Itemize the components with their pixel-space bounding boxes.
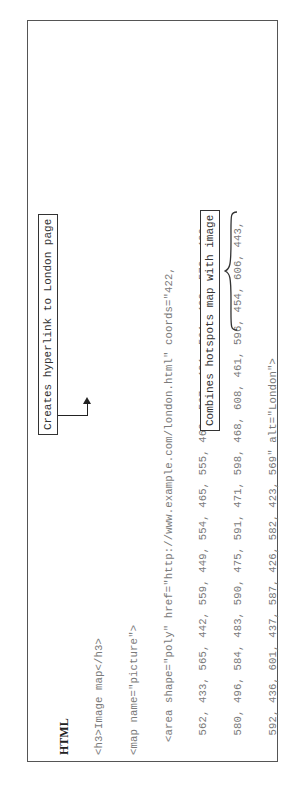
code-line-map-open: <map name="picture"> [129,202,141,755]
code-line-h3: <h3>Image map</h3> [94,202,106,755]
arrow-connector-icon [87,402,88,416]
curly-brace-icon [224,211,238,331]
code-block: HTML <h3>Image map</h3> <map name="pictu… [36,202,300,755]
arrow-head-icon [83,397,91,404]
callout-london-link: Creates hyperlink to London page [38,214,58,435]
rotated-figure: HTML <h3>Image map</h3> <map name="pictu… [0,0,300,785]
arrow-connector-icon [58,415,88,416]
code-line-area-london: <area shape="poly" href="http://www.exam… [164,202,176,755]
figure-heading: HTML [59,202,71,755]
code-figure-frame: HTML <h3>Image map</h3> <map name="pictu… [27,20,278,762]
callout-hotspots: Combines hotspots map with image [200,210,220,431]
code-line-london-coords-3: 592, 436, 601, 437, 587, 426, 582, 423, … [268,202,280,755]
